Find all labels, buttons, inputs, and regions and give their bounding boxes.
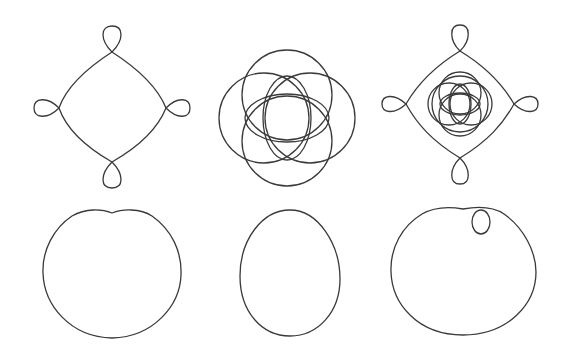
panel-bottom-right-dimpled-round-oval — [391, 208, 536, 335]
panel-top-right-looped-diamond-rosette — [382, 25, 538, 184]
panel-bottom-middle-egg — [240, 210, 340, 336]
figure-canvas — [0, 0, 565, 359]
panel-top-middle-rosette — [219, 50, 355, 186]
figure-svg — [0, 0, 565, 359]
panel-top-left-looped-diamond — [34, 26, 190, 188]
panel-bottom-left-dimpled-round — [43, 210, 181, 338]
